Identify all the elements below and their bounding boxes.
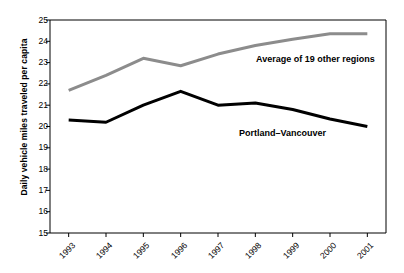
- x-axis-tick-label: 1999: [278, 241, 301, 264]
- x-axis-tick-label: 1993: [54, 241, 77, 264]
- chart-container: Daily vehicle miles traveled per capita …: [0, 0, 404, 273]
- x-axis-tick-label: 1995: [128, 241, 151, 264]
- x-axis-tick-labels: 199319941995199619971998199920002001: [0, 0, 404, 273]
- x-axis-tick-label: 1996: [166, 241, 189, 264]
- series-label-2: Portland–Vancouver: [239, 128, 326, 138]
- x-axis-tick-label: 2000: [315, 241, 338, 264]
- x-axis-tick-label: 1998: [240, 241, 263, 264]
- series-label-1: Average of 19 other regions: [256, 54, 375, 64]
- x-axis-tick-label: 1997: [203, 241, 226, 264]
- x-axis-tick-label: 2001: [352, 241, 375, 264]
- x-axis-tick-label: 1994: [91, 241, 114, 264]
